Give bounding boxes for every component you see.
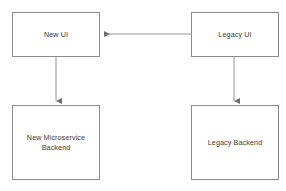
node-legacy-backend-label: Legacy Backend xyxy=(205,138,266,148)
node-new-microservice-backend[interactable]: New Microservice Backend xyxy=(12,105,100,180)
diagram-canvas: New UI Legacy UI New Microservice Backen… xyxy=(0,0,286,191)
node-new-ui[interactable]: New UI xyxy=(12,12,100,57)
node-new-microservice-backend-label: New Microservice Backend xyxy=(24,133,88,152)
node-legacy-ui[interactable]: Legacy UI xyxy=(191,12,279,57)
node-legacy-ui-label: Legacy UI xyxy=(215,30,254,40)
node-legacy-backend[interactable]: Legacy Backend xyxy=(191,105,279,180)
node-new-ui-label: New UI xyxy=(41,30,71,40)
